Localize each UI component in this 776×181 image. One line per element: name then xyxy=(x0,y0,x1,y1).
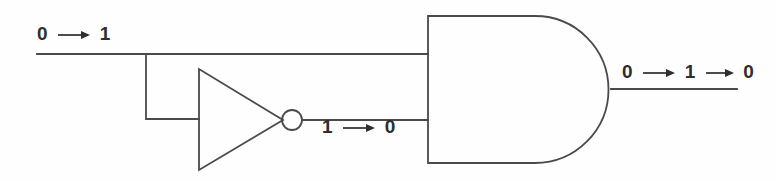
and-gate-body-icon xyxy=(428,16,609,163)
output-via-value: 1 xyxy=(685,61,696,82)
input-to-value: 1 xyxy=(100,23,111,44)
arrow-icon xyxy=(57,24,91,43)
inverter-to-value: 0 xyxy=(385,116,396,137)
arrow-icon xyxy=(342,117,376,136)
inverter-bubble-icon xyxy=(282,110,302,130)
branch-wire xyxy=(146,54,199,119)
arrow-icon xyxy=(642,62,676,81)
arrow-icon xyxy=(705,62,735,81)
inverter-triangle-icon xyxy=(199,69,283,170)
input-from-value: 0 xyxy=(37,23,48,44)
output-to-value: 0 xyxy=(743,61,754,82)
circuit-schematic xyxy=(0,0,776,181)
inverter-output-transition-label: 1 0 xyxy=(322,117,396,137)
gate-output-transition-label: 0 1 0 xyxy=(622,62,754,82)
inverter-from-value: 1 xyxy=(322,116,333,137)
logic-diagram-canvas: 0 1 1 0 0 1 xyxy=(0,0,776,181)
output-from-value: 0 xyxy=(622,61,633,82)
input-transition-label: 0 1 xyxy=(37,24,111,44)
